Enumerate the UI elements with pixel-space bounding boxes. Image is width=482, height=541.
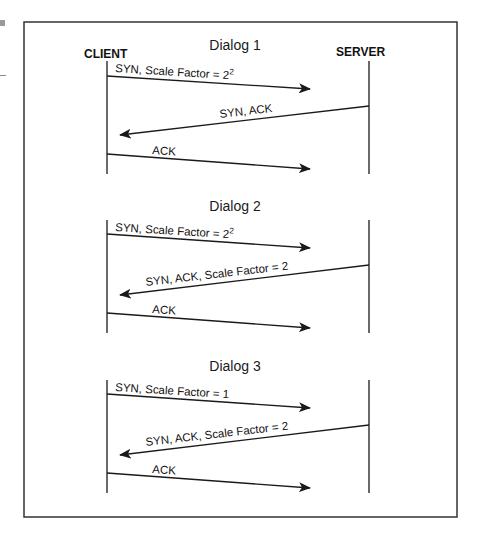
message-label: SYN, ACK xyxy=(219,102,273,120)
client-label: CLIENT xyxy=(84,47,128,61)
message-arrow xyxy=(107,154,310,169)
message-label: ACK xyxy=(152,463,177,477)
message-label: ACK xyxy=(152,144,177,158)
dialog-title: Dialog 3 xyxy=(209,358,261,374)
dialog-title: Dialog 1 xyxy=(209,37,261,53)
dialog-1: Dialog 1 SYN, Scale Factor = 22 SYN, ACK… xyxy=(107,37,369,174)
message-label: SYN, Scale Factor = 22 xyxy=(115,219,235,240)
dialog-title: Dialog 2 xyxy=(209,198,261,214)
message-arrow xyxy=(107,313,310,328)
sequence-diagram: CLIENT SERVER Dialog 1 SYN, Scale Factor… xyxy=(0,0,482,541)
dialog-3: Dialog 3 SYN, Scale Factor = 1 SYN, ACK,… xyxy=(107,358,369,493)
dialog-2: Dialog 2 SYN, Scale Factor = 22 SYN, ACK… xyxy=(107,198,369,333)
message-arrow xyxy=(107,473,310,488)
message-label: SYN, Scale Factor = 1 xyxy=(115,381,230,400)
message-label: ACK xyxy=(152,303,177,317)
server-label: SERVER xyxy=(336,45,385,59)
